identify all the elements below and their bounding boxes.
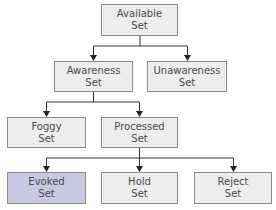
node-label: Set [131,188,147,200]
node-label: Set [179,77,195,89]
node-label: Unawareness [153,65,220,77]
node-evoked-set: Evoked Set [7,172,86,204]
node-label: Foggy [31,121,61,133]
node-processed-set: Processed Set [101,117,178,148]
node-label: Set [131,133,147,145]
node-unawareness-set: Unawareness Set [147,61,227,92]
node-foggy-set: Foggy Set [7,117,86,148]
node-label: Awareness [67,65,121,77]
node-label: Set [131,20,147,32]
node-available-set: Available Set [101,4,178,36]
node-label: Set [38,133,54,145]
node-awareness-set: Awareness Set [54,61,133,92]
node-label: Hold [128,176,151,188]
node-label: Available [117,8,162,20]
node-label: Evoked [28,176,64,188]
node-label: Set [225,188,241,200]
node-hold-set: Hold Set [101,172,178,204]
node-label: Reject [217,176,248,188]
node-label: Set [85,77,101,89]
node-label: Processed [114,121,164,133]
node-label: Set [38,188,54,200]
node-reject-set: Reject Set [194,172,272,204]
